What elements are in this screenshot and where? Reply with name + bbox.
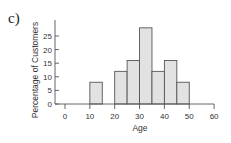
x-tick-label: 40 xyxy=(160,112,169,121)
y-tick-label: 20 xyxy=(43,46,52,55)
x-tick-label: 50 xyxy=(185,112,194,121)
histogram-bar xyxy=(152,71,164,104)
histogram-bar xyxy=(127,60,139,104)
y-tick-label: 25 xyxy=(43,32,52,41)
histogram-bars xyxy=(90,28,189,104)
y-tick-label: 0 xyxy=(48,100,53,109)
histogram-chart: 05101520250102030405060 Age Percentage o… xyxy=(0,0,231,143)
histogram-bar xyxy=(177,82,189,104)
x-tick-label: 60 xyxy=(210,112,219,121)
y-axis-title: Percentage of Customers xyxy=(30,22,40,118)
histogram-bar xyxy=(90,82,102,104)
histogram-bar xyxy=(164,60,176,104)
y-tick-label: 15 xyxy=(43,59,52,68)
x-tick-label: 10 xyxy=(85,112,94,121)
x-tick-label: 20 xyxy=(110,112,119,121)
histogram-bar xyxy=(140,28,152,104)
x-tick-label: 0 xyxy=(63,112,68,121)
x-tick-label: 30 xyxy=(135,112,144,121)
y-tick-label: 5 xyxy=(48,86,53,95)
histogram-bar xyxy=(115,71,127,104)
y-tick-label: 10 xyxy=(43,73,52,82)
x-axis-title: Age xyxy=(132,123,147,133)
